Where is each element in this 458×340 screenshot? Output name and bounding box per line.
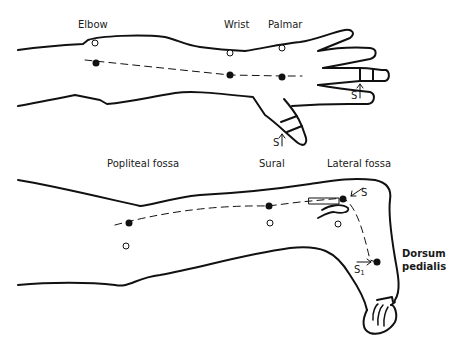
label-palmar: Palmar xyxy=(268,19,302,30)
arm-finger-lower xyxy=(292,85,374,106)
palmar-dot xyxy=(279,74,286,81)
stim-label-finger: S xyxy=(351,90,357,101)
leg-nerve-path xyxy=(115,198,376,262)
stim-label-thumb: S xyxy=(273,137,279,148)
arm-finger-middle xyxy=(318,68,389,85)
nerve-diagram xyxy=(0,0,458,340)
arm-nerve-path xyxy=(85,60,302,76)
dorsum-dot xyxy=(374,259,381,266)
sural-ref-dot xyxy=(267,220,273,226)
wrist-dot xyxy=(227,72,234,79)
label-sural: Sural xyxy=(259,158,285,169)
sural-dot xyxy=(266,203,273,210)
stim-label-lateral: S xyxy=(361,187,367,198)
label-wrist: Wrist xyxy=(224,19,249,30)
lateral-ref-dot xyxy=(335,221,341,227)
arm-outline-lower xyxy=(18,92,306,145)
lateral-dot xyxy=(340,196,347,203)
popliteal-dot xyxy=(126,220,133,227)
leg-malleolus xyxy=(318,205,348,218)
wrist-ref-dot xyxy=(227,50,233,56)
arm-outline-upper xyxy=(18,30,376,68)
stim-label-dorsum: S1 xyxy=(354,264,365,277)
label-dorsum-pedialis: Dorsum pedialis xyxy=(402,247,446,273)
label-elbow: Elbow xyxy=(78,19,108,30)
elbow-ref-dot xyxy=(92,40,98,46)
palmar-ref-dot xyxy=(279,45,285,51)
leg-outline-lower xyxy=(18,247,367,310)
popliteal-ref-dot xyxy=(123,243,129,249)
label-popliteal-fossa: Popliteal fossa xyxy=(107,158,179,169)
label-lateral-fossa: Lateral fossa xyxy=(327,158,391,169)
elbow-dot xyxy=(93,60,100,67)
